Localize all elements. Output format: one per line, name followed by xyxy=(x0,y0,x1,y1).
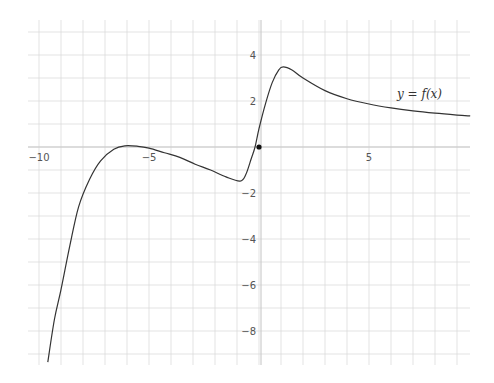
origin-point xyxy=(256,144,261,149)
function-graph: −10−5542−2−4−6−8 y = f(x) xyxy=(0,0,494,383)
y-tick-label: 4 xyxy=(250,50,256,61)
y-tick-label: −8 xyxy=(241,326,256,337)
x-tick-label: 5 xyxy=(366,152,372,163)
x-tick-label: −10 xyxy=(28,152,49,163)
function-label: y = f(x) xyxy=(396,87,442,101)
tick-labels: −10−5542−2−4−6−8 xyxy=(28,50,372,337)
y-tick-label: −6 xyxy=(241,280,256,291)
x-tick-label: −5 xyxy=(142,152,157,163)
y-tick-label: −4 xyxy=(241,234,256,245)
y-tick-label: 2 xyxy=(250,96,256,107)
y-tick-label: −2 xyxy=(241,188,256,199)
